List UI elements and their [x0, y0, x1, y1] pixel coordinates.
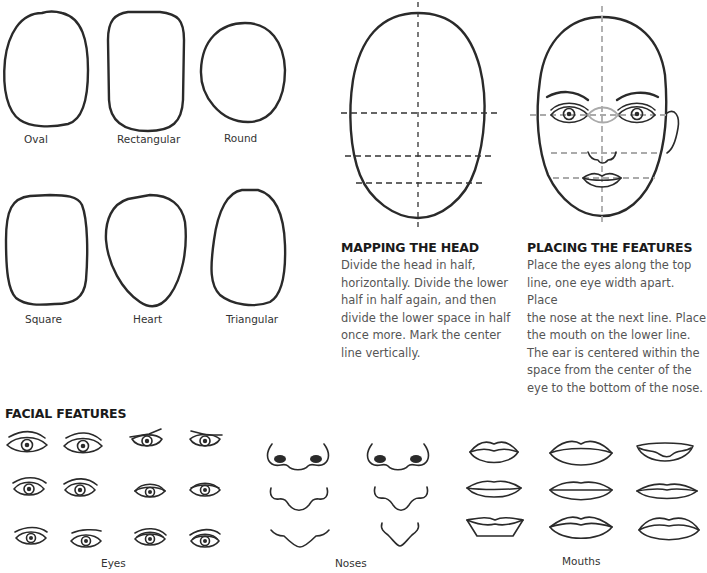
facial-features-title: FACIAL FEATURES	[5, 406, 126, 421]
placing-line: the mouth on the lower line.	[527, 327, 707, 345]
face-shape-heart	[106, 195, 186, 306]
face-label-square: Square	[25, 313, 62, 325]
mapping-line: line vertically.	[341, 345, 531, 363]
placing-features-description: Place the eyes along the top line, one e…	[527, 257, 707, 397]
mapping-line: Divide the head in half,	[341, 257, 531, 275]
eyes-grid	[7, 429, 222, 547]
face-shape-triangular	[212, 190, 286, 305]
placing-line: line, one eye width apart. Place	[527, 275, 707, 310]
placing-features-title: PLACING THE FEATURES	[527, 240, 692, 255]
face-label-rectangular: Rectangular	[117, 133, 180, 145]
mapping-line: once more. Mark the center	[341, 327, 531, 345]
placing-line: space from the center of the	[527, 362, 707, 380]
placing-features-diagram	[530, 6, 678, 225]
mouths-grid	[467, 441, 699, 539]
noses-label: Noses	[335, 557, 367, 569]
mouths-label: Mouths	[562, 555, 600, 567]
face-shape-rectangular	[108, 12, 184, 131]
placing-line: eye to the bottom of the nose.	[527, 380, 707, 398]
mapping-line: half in half again, and then	[341, 292, 531, 310]
placing-line: the nose at the next line. Place	[527, 310, 707, 328]
face-label-heart: Heart	[133, 313, 162, 325]
face-shape-round	[201, 23, 285, 122]
mapping-line: horizontally. Divide the lower	[341, 275, 531, 293]
mapping-line: divide the lower space in half	[341, 310, 531, 328]
placing-line: The ear is centered within the	[527, 345, 707, 363]
eyes-label: Eyes	[101, 557, 126, 569]
mapping-head-title: MAPPING THE HEAD	[341, 240, 479, 255]
face-label-triangular: Triangular	[226, 313, 278, 325]
face-label-oval: Oval	[24, 133, 48, 145]
mapping-head-description: Divide the head in half, horizontally. D…	[341, 257, 531, 362]
placing-line: Place the eyes along the top	[527, 257, 707, 275]
face-label-round: Round	[224, 132, 257, 144]
mapping-head-diagram	[341, 2, 500, 230]
noses-grid	[268, 444, 429, 547]
face-shape-square	[6, 195, 87, 305]
face-shape-oval	[4, 12, 88, 127]
